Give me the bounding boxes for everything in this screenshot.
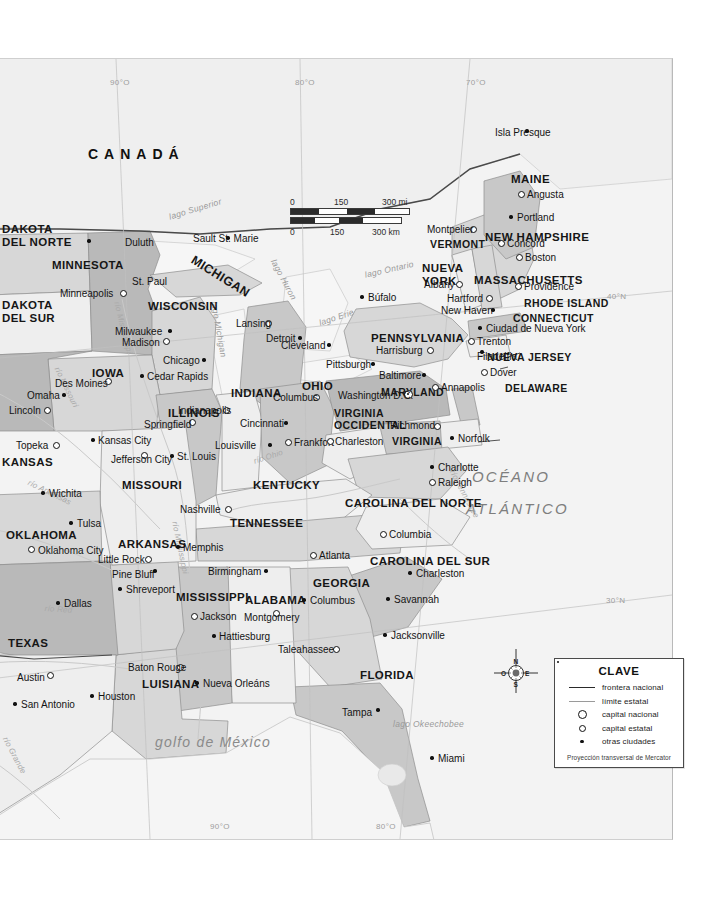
capital-estatal-marker-harrisburg [427,347,434,354]
city-marker-tulsa [69,521,72,524]
legend-projection-note: Proyección transversal de Mercator [562,754,676,761]
city-marker-duluth [87,239,90,242]
city-label-angusta: Angusta [527,190,564,200]
scale-mi-tick-1: 150 [334,197,348,207]
city-label-lincoln: Lincoln [9,406,41,416]
capital-estatal-marker-topeka [53,442,60,449]
city-label-hattiesburg: Hattiesburg [219,632,270,642]
city-label-providence: Providence [524,282,574,292]
state-label-line: MINNESOTA [52,259,124,272]
state-label-line: MISSISSIPPI [176,591,249,604]
state-label-line: NUEVA [422,262,463,275]
city-label-little-rock: Little Rock [98,555,145,565]
scale-bar: 0 150 300 mi 0 150 300 km [290,197,418,239]
legend-label-capital-estatal: capital estatal [602,724,652,733]
city-label-st-louis: St. Louis [177,452,216,462]
city-label-miami: Miami [438,754,465,764]
capital-estatal-marker-dover [481,369,488,376]
state-label-line: VIRGINIA [392,435,442,447]
legend-label-capital-nacional: capital nacional [602,710,659,719]
city-label-cleveland: Cleveland [281,341,325,351]
scale-bar-miles [290,208,410,215]
city-label-chicago: Chicago [163,356,200,366]
capital-estatal-marker-hartford [486,295,493,302]
capital-estatal-icon [562,725,602,732]
city-label-indianapolis: Indianapolis [178,406,231,416]
graticule-label-6: 30°N [606,597,625,605]
city-marker-kansas-city [91,438,94,441]
city-label-montgomery: Montgomery [244,613,300,623]
city-label-milwaukee: Milwaukee [115,327,162,337]
city-label-sault-st-marie: Sault St. Marie [193,234,259,244]
legend-row-otras-ciudades: otras ciudades [562,735,676,749]
city-label-columbus: Columbus [310,596,355,606]
graticule-label-1: 80°O [295,79,315,87]
legend-title: CLAVE [562,665,676,677]
capital-estatal-marker-austin [47,672,54,679]
city-label-dallas: Dallas [64,599,92,609]
state-label-line: TENNESSEE [230,517,303,530]
city-label-louisville: Louisville [215,441,256,451]
city-label-charlotte: Charlotte [438,463,479,473]
city-marker-columbus [302,598,305,601]
city-label-jefferson-city: Jefferson City [111,455,172,465]
capital-estatal-marker-little-rock [145,556,152,563]
state-label-kentucky: KENTUCKY [253,479,320,492]
city-label-annapolis: Annapolis [441,383,485,393]
city-marker-jacksonville [383,633,386,636]
city-marker-savannah [386,597,389,600]
state-label-line: FLORIDA [360,669,414,682]
city-marker-milwaukee [168,329,171,332]
city-marker-chicago [202,358,205,361]
city-label-taleahassee: Taleahassee [278,645,334,655]
capital-estatal-marker-nashville [225,506,232,513]
legend-label-frontera-nacional: frontera nacional [602,683,663,692]
state-label-dakota-del-norte: DAKOTADEL NORTE [2,223,72,249]
city-marker-miami [430,756,433,759]
national-border-line-icon [562,687,602,688]
city-label-atlanta: Atlanta [319,551,350,561]
city-marker-st-louis [170,454,173,457]
city-label-cincinnati: Cincinnati [240,419,284,429]
legend-label-limite-estatal: límite estatal [602,697,648,706]
state-label-alabama: ALABAMA [245,594,306,607]
capital-nacional-icon [562,710,602,719]
city-marker-birmingham [264,569,267,572]
scale-mi-tick-2: 300 mi [382,197,408,207]
scale-km-tick-1: 150 [330,227,344,237]
city-label-st-paul: St. Paul [132,277,167,287]
ocean-label-atlantico: OCÉANO [472,469,550,484]
capital-estatal-marker-providence [515,283,522,290]
state-label-line: OKLAHOMA [6,529,77,542]
legend-row-limite-estatal: límite estatal [562,695,676,709]
scale-km-tick-0: 0 [290,227,295,237]
state-label-line: LUISIANA [142,678,200,691]
capital-estatal-marker-concord [498,240,505,247]
capital-estatal-marker-trenton [468,338,475,345]
city-marker-b-falo [360,295,363,298]
city-label-washington-d-c-: Washington D.C. [338,391,413,401]
city-label-tampa: Tampa [342,708,372,718]
lake-label-5: lago Okeechobee [393,720,464,729]
city-label-des-moines: Des Moines [55,379,108,389]
state-label-mississippi: MISSISSIPPI [176,591,249,604]
city-marker-portland [509,215,512,218]
state-label-line: RHODE ISLAND [524,297,609,309]
city-label-pine-bluff: Pine Bluff [112,570,155,580]
city-label-austin: Austin [17,673,45,683]
state-label-line: CAROLINA DEL NORTE [345,497,482,510]
city-label-charleston: Charleston [416,569,464,579]
capital-estatal-marker-atlanta [310,552,317,559]
city-label-jackson: Jackson [200,612,237,622]
city-label-isla-presque: Isla Presque [495,128,551,138]
city-label-topeka: Topeka [16,441,48,451]
compass-east-label: E [525,670,529,677]
state-label-delaware: DELAWARE [505,382,568,394]
graticule-label-0: 90°O [110,79,130,87]
state-label-wisconsin: WISCONSIN [148,300,218,313]
city-label-columbia: Columbia [389,530,431,540]
city-label-minneapolis: Minneapolis [60,289,113,299]
gulf-label-mexico: golfo de México [155,735,271,749]
city-label-savannah: Savannah [394,595,439,605]
capital-estatal-marker-madison [163,338,170,345]
